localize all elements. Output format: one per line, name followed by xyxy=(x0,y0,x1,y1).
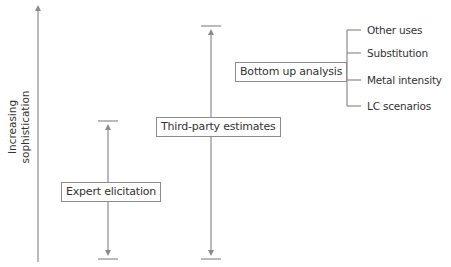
component-metal-intensity: Metal intensity xyxy=(367,74,442,86)
axis-label-line-2: sophistication xyxy=(19,77,32,177)
expert-elicitation-box: Expert elicitation xyxy=(61,182,161,202)
component-other-uses: Other uses xyxy=(367,24,422,36)
third-party-range-arrow-icon xyxy=(201,26,221,259)
sophistication-axis-label: Increasing sophistication xyxy=(6,77,32,177)
bottom-up-analysis-box: Bottom up analysis xyxy=(235,62,347,82)
component-substitution: Substitution xyxy=(367,47,428,59)
third-party-estimates-box: Third-party estimates xyxy=(156,117,281,137)
axis-label-line-1: Increasing xyxy=(6,77,19,177)
component-lc-scenarios: LC scenarios xyxy=(367,100,431,112)
